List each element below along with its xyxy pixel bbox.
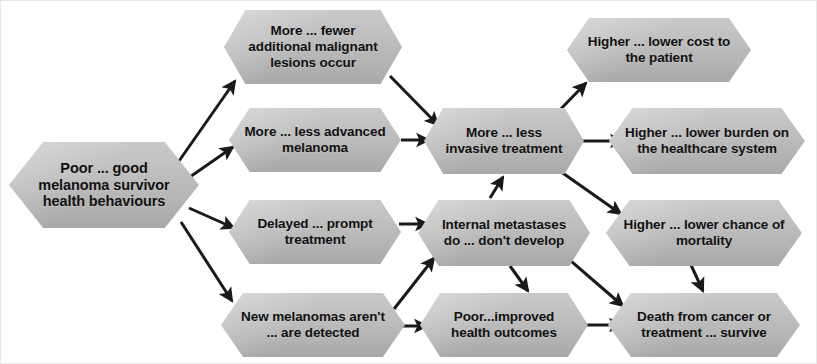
node-label-cost: Higher ... lower cost to the patient	[581, 34, 737, 66]
node-burden[interactable]: Higher ... lower burden on the healthcar…	[609, 108, 805, 174]
node-label-newmel: New melanomas aren't ... are detected	[235, 309, 391, 341]
node-label-advanced: More ... less advanced melanoma	[243, 124, 387, 156]
node-mortality[interactable]: Higher ... lower chance of mortality	[606, 200, 802, 266]
edge-newmel-metastases	[394, 258, 434, 309]
node-root[interactable]: Poor ... good melanoma survivor health b…	[9, 142, 199, 228]
edge-metastases-outcomes	[510, 266, 528, 291]
node-label-death: Death from cancer or treatment ... survi…	[622, 309, 786, 341]
edge-root-delayed	[189, 208, 234, 228]
edge-mortality-death	[691, 265, 703, 291]
node-invasive[interactable]: More ... less invasive treatment	[424, 108, 584, 174]
node-label-root: Poor ... good melanoma survivor health b…	[23, 160, 185, 211]
node-label-delayed: Delayed ... prompt treatment	[243, 216, 387, 248]
node-newmel[interactable]: New melanomas aren't ... are detected	[221, 293, 405, 357]
node-label-metastases: Internal metastases do ... don't develop	[432, 217, 576, 249]
node-advanced[interactable]: More ... less advanced melanoma	[229, 108, 401, 172]
node-label-mortality: Higher ... lower chance of mortality	[620, 217, 788, 249]
node-metastases[interactable]: Internal metastases do ... don't develop	[418, 200, 590, 266]
node-label-outcomes: Poor...improved health outcomes	[434, 309, 574, 341]
node-label-burden: Higher ... lower burden on the healthcar…	[623, 125, 791, 157]
node-death[interactable]: Death from cancer or treatment ... survi…	[608, 293, 800, 357]
node-outcomes[interactable]: Poor...improved health outcomes	[420, 293, 588, 357]
node-lesions[interactable]: More ... fewer additional malignant lesi…	[224, 10, 402, 84]
node-delayed[interactable]: Delayed ... prompt treatment	[229, 200, 401, 264]
node-cost[interactable]: Higher ... lower cost to the patient	[567, 18, 751, 82]
edge-root-advanced	[187, 147, 233, 179]
edge-root-newmel	[181, 222, 232, 301]
edge-root-lesions	[179, 81, 235, 161]
edge-metastases-invasive	[490, 177, 503, 198]
edge-lesions-invasive	[390, 76, 438, 125]
node-label-invasive: More ... less invasive treatment	[438, 125, 570, 157]
diagram-canvas: Poor ... good melanoma survivor health b…	[0, 0, 817, 364]
node-label-lesions: More ... fewer additional malignant lesi…	[238, 23, 388, 70]
